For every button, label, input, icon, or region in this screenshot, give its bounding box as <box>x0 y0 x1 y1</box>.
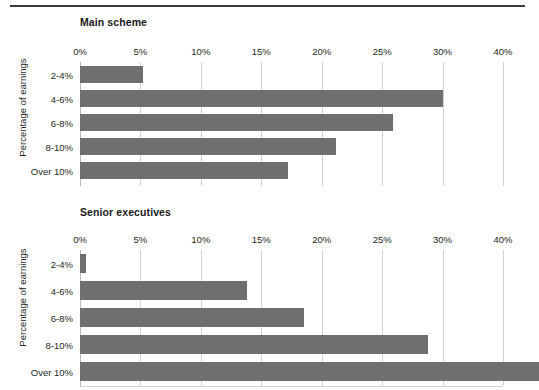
x-tick-label-4: 20% <box>312 46 331 57</box>
bar <box>80 281 247 300</box>
x-tick-label-3: 15% <box>252 46 271 57</box>
x-tick-label-0: 0% <box>73 234 87 245</box>
bar <box>80 162 288 179</box>
category-label-6-8: 6-8% <box>51 312 73 323</box>
category-label-2-4: 2-4% <box>51 69 73 80</box>
bar-row: Over 10% <box>80 162 503 179</box>
bar <box>80 138 336 155</box>
x-tick-label-7: 40% <box>493 46 512 57</box>
bar-row: 8-10% <box>80 138 503 155</box>
x-tick-label-2: 10% <box>191 234 210 245</box>
bar-series-main-scheme: 2-4%4-6%6-8%8-10%Over 10% <box>80 62 503 186</box>
bar-row: 6-8% <box>80 114 503 131</box>
x-tick-label-6: 30% <box>433 234 452 245</box>
x-tick-label-5: 25% <box>373 234 392 245</box>
x-tick-label-1: 5% <box>134 234 148 245</box>
category-label-over-10: Over 10% <box>31 366 73 377</box>
x-tick-label-3: 15% <box>252 234 271 245</box>
bar <box>80 335 428 354</box>
category-label-over-10: Over 10% <box>31 165 73 176</box>
category-label-4-6: 4-6% <box>51 285 73 296</box>
bar <box>80 362 539 381</box>
bar <box>80 308 304 327</box>
bar <box>80 114 393 131</box>
x-tick-label-5: 25% <box>373 46 392 57</box>
bar-row: 6-8% <box>80 308 503 327</box>
chart-panel-main-scheme: Main scheme Percentage of earnings 0%5%1… <box>0 10 525 195</box>
bar-row: 4-6% <box>80 90 503 107</box>
bar <box>80 254 86 273</box>
plot-area-senior-executives: 2-4%4-6%6-8%8-10%Over 10% <box>80 250 503 386</box>
x-tick-label-0: 0% <box>73 46 87 57</box>
bar <box>80 90 443 107</box>
category-label-8-10: 8-10% <box>46 339 73 350</box>
x-tick-label-1: 5% <box>134 46 148 57</box>
bar-series-senior-executives: 2-4%4-6%6-8%8-10%Over 10% <box>80 250 503 386</box>
gridline-40pct <box>503 62 504 186</box>
category-label-8-10: 8-10% <box>46 141 73 152</box>
y-axis-title-main-scheme: Percentage of earnings <box>17 48 28 168</box>
x-axis-tick-labels-main-scheme: 0%5%10%15%20%25%30%40% <box>80 46 503 60</box>
category-label-4-6: 4-6% <box>51 93 73 104</box>
x-axis-tick-labels-senior-executives: 0%5%10%15%20%25%30%40% <box>80 234 503 248</box>
bottom-axis-line <box>80 386 503 387</box>
x-tick-label-7: 40% <box>493 234 512 245</box>
bar-row: 4-6% <box>80 281 503 300</box>
bar-row: Over 10% <box>80 362 503 381</box>
chart-title-senior-executives: Senior executives <box>80 206 171 218</box>
y-axis-title-senior-executives: Percentage of earnings <box>17 238 28 358</box>
chart-panel-senior-executives: Senior executives Percentage of earnings… <box>0 200 525 390</box>
bar-row: 2-4% <box>80 254 503 273</box>
bar-row: 8-10% <box>80 335 503 354</box>
category-label-2-4: 2-4% <box>51 258 73 269</box>
bar-row: 2-4% <box>80 66 503 83</box>
bar <box>80 66 143 83</box>
x-tick-label-2: 10% <box>191 46 210 57</box>
x-tick-label-4: 20% <box>312 234 331 245</box>
category-label-6-8: 6-8% <box>51 117 73 128</box>
plot-area-main-scheme: 2-4%4-6%6-8%8-10%Over 10% <box>80 62 503 186</box>
x-tick-label-6: 30% <box>433 46 452 57</box>
top-divider-rule <box>10 5 525 7</box>
chart-title-main-scheme: Main scheme <box>80 16 147 28</box>
